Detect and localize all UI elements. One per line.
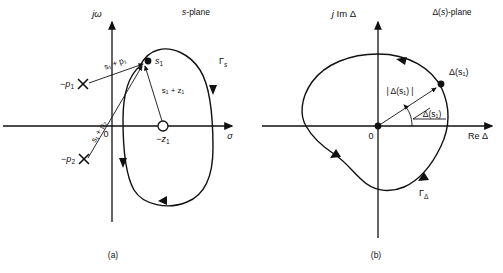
contour-arrow-a-bottom [158,196,167,205]
imaginary-axis-label-b: j Im Δ [330,8,357,19]
contour-label-a: Γs [219,56,228,68]
figure-svg: jω σ 0 s-plane Γs −z1 −p1 − [0,0,503,273]
contour-arrow-b-top [396,57,407,65]
delta-s1-point-marker [438,81,445,88]
pole-2-marker [79,154,89,164]
vector-s1-plus-p1-label: s₁ + p₁ [103,56,128,72]
imaginary-axis-label-a: jω [90,8,102,19]
pole-1-label: −p1 [60,79,74,90]
pole-1-marker [78,79,88,89]
vector-s1-plus-z1 [145,66,162,121]
zero-1-marker [158,121,168,131]
real-axis-label-a: σ [227,131,233,141]
contour-arrow-a-right [209,85,217,95]
delta-s1-point-label: Δ(s₁) [449,67,469,77]
figure-container: jω σ 0 s-plane Γs −z1 −p1 − [0,0,503,273]
contour-arrow-b-left [330,149,341,158]
test-point-marker [145,58,152,65]
angle-label: Δ(s₁) [423,109,442,119]
test-point-label: s1 [155,56,164,67]
zero-1-label: −z1 [156,134,170,145]
contour-label-b: ΓΔ [419,188,429,200]
real-axis-label-b: Re Δ [468,131,488,141]
plane-title-a: s-plane [182,7,210,17]
contour-gamma-delta [302,54,448,191]
origin-label-b: 0 [368,131,373,141]
panel-b: j Im Δ Re Δ 0 Δ(s)-plane ΓΔ | Δ(s₁) | Δ(… [262,7,492,260]
vector-s1-plus-z1-label: s₁ + z₁ [162,86,185,95]
panel-a: jω σ 0 s-plane Γs −z1 −p1 − [3,7,233,260]
caption-b: (b) [371,250,382,260]
pole-2-label: −p2 [61,154,75,165]
caption-a: (a) [108,250,119,260]
plane-title-b: Δ(s)-plane [432,7,471,17]
magnitude-label: | Δ(s₁) | [386,86,413,96]
